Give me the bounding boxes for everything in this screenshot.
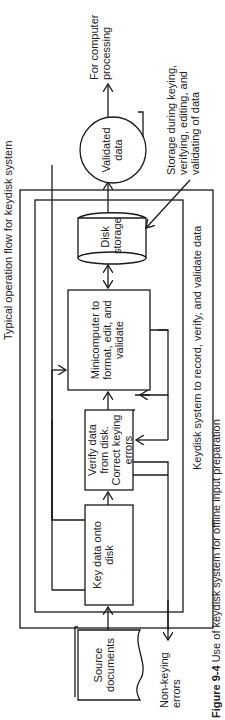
storage-note-label: Storage during keying, verifying, editin…	[165, 45, 201, 175]
figure-caption-text: Use of keydisk system for offline input …	[210, 419, 222, 662]
disk-storage-label: Disk storage	[99, 220, 123, 254]
source-documents-label: Source documents	[92, 634, 116, 696]
keydisk-flow-diagram: Typical operation flow for keydisk syste…	[0, 0, 225, 720]
inner-box-label: Keydisk system to record, verify, and va…	[191, 180, 203, 470]
key-data-label: Key data onto disk	[91, 510, 115, 600]
validated-data-label: Validated data	[100, 125, 124, 175]
figure-caption-label: Figure 9-4	[210, 665, 222, 718]
output-label: For computer processing	[88, 5, 112, 80]
minicomputer-label: Minicomputer to format, edit, and valida…	[89, 296, 125, 384]
outer-box-label: Typical operation flow for keydisk syste…	[2, 80, 14, 340]
verify-data-label: Verify data from disk. Correct keying er…	[86, 412, 134, 488]
figure-caption: Figure 9-4 Use of keydisk system for off…	[210, 318, 222, 718]
non-keying-errors-label: Non-keying errors	[158, 648, 182, 708]
